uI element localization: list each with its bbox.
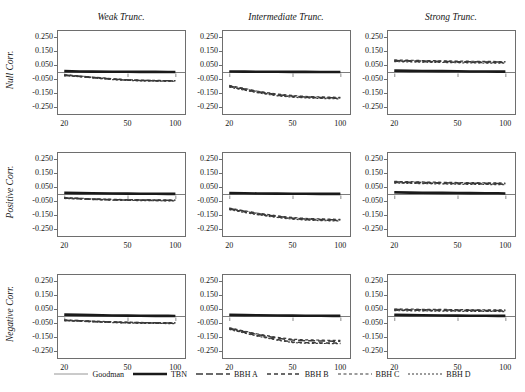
series-line-tbn	[64, 71, 175, 72]
y-tick-label: 0.150	[351, 290, 383, 299]
legend-label: BBH D	[446, 370, 470, 379]
y-tick-mark	[54, 159, 57, 160]
y-tick-label: 0.050	[351, 182, 383, 191]
y-tick-mark	[384, 351, 387, 352]
y-tick-mark	[384, 229, 387, 230]
y-tick-label: -0.150	[186, 88, 218, 97]
y-tick-label: -0.250	[351, 346, 383, 355]
x-tick-label: 100	[161, 241, 189, 250]
y-tick-label: -0.050	[186, 196, 218, 205]
y-tick-label: 0.150	[186, 168, 218, 177]
y-tick-label: 0.150	[21, 290, 53, 299]
series-line-tbn	[64, 193, 175, 194]
y-tick-mark	[54, 51, 57, 52]
x-tick-label: 50	[279, 119, 307, 128]
y-tick-label: -0.050	[21, 74, 53, 83]
y-tick-label: 0.050	[186, 304, 218, 313]
legend-swatch-dash-short	[338, 370, 372, 378]
y-tick-mark	[219, 337, 222, 338]
y-tick-mark	[384, 187, 387, 188]
x-tick-label: 50	[114, 241, 142, 250]
chart-legend: GoodmanTBNBBH ABBH BBBH CBBH D	[0, 364, 525, 384]
y-tick-label: -0.050	[351, 74, 383, 83]
y-tick-label: 0.250	[351, 276, 383, 285]
series-line-tbn	[229, 71, 340, 72]
y-tick-mark	[219, 107, 222, 108]
y-tick-mark	[54, 215, 57, 216]
y-tick-label: -0.050	[21, 318, 53, 327]
y-tick-mark	[54, 79, 57, 80]
y-tick-mark	[384, 215, 387, 216]
y-tick-mark	[54, 323, 57, 324]
y-tick-mark	[384, 93, 387, 94]
y-tick-mark	[54, 93, 57, 94]
y-tick-mark	[384, 309, 387, 310]
y-tick-label: 0.050	[21, 304, 53, 313]
y-tick-mark	[384, 201, 387, 202]
legend-item-tbn: TBN	[133, 370, 187, 379]
y-tick-mark	[54, 229, 57, 230]
y-tick-mark	[54, 201, 57, 202]
y-tick-label: -0.150	[21, 210, 53, 219]
y-tick-mark	[219, 173, 222, 174]
y-tick-label: 0.150	[351, 168, 383, 177]
series-line-bbh-c	[229, 328, 340, 341]
legend-item-goodman: Goodman	[54, 370, 124, 379]
x-tick-label: 20	[215, 241, 243, 250]
series-line-tbn	[394, 192, 505, 193]
y-tick-label: 0.250	[186, 154, 218, 163]
y-tick-mark	[384, 37, 387, 38]
series-line-tbn	[229, 193, 340, 194]
legend-label: TBN	[171, 370, 187, 379]
y-tick-label: -0.250	[186, 346, 218, 355]
y-tick-label: -0.250	[21, 102, 53, 111]
y-tick-mark	[54, 65, 57, 66]
series-line-tbn	[229, 315, 340, 316]
y-tick-label: 0.050	[21, 60, 53, 69]
y-tick-mark	[54, 281, 57, 282]
chart-panel-r3-c3	[387, 274, 516, 359]
x-tick-label: 20	[380, 119, 408, 128]
x-tick-label: 20	[50, 241, 78, 250]
y-tick-label: 0.250	[186, 32, 218, 41]
legend-swatch-dash-fine	[408, 370, 442, 378]
series-line-bbh-c	[64, 75, 175, 81]
y-tick-label: -0.250	[351, 224, 383, 233]
y-tick-label: 0.150	[351, 46, 383, 55]
y-tick-mark	[219, 51, 222, 52]
chart-panel-r1-c2	[222, 30, 351, 115]
y-tick-mark	[54, 337, 57, 338]
y-tick-mark	[54, 37, 57, 38]
y-tick-label: -0.250	[21, 224, 53, 233]
chart-panel-r3-c2	[222, 274, 351, 359]
y-tick-label: 0.150	[21, 168, 53, 177]
y-tick-mark	[384, 281, 387, 282]
y-tick-label: 0.050	[351, 304, 383, 313]
y-tick-mark	[219, 323, 222, 324]
legend-label: BBH C	[376, 370, 400, 379]
x-tick-label: 100	[326, 119, 354, 128]
y-tick-mark	[54, 351, 57, 352]
y-tick-mark	[54, 107, 57, 108]
y-tick-label: -0.050	[21, 196, 53, 205]
y-tick-label: 0.050	[186, 60, 218, 69]
y-tick-label: -0.250	[186, 224, 218, 233]
y-tick-label: -0.150	[351, 332, 383, 341]
legend-label: Goodman	[92, 370, 124, 379]
x-tick-label: 50	[444, 119, 472, 128]
y-tick-label: -0.050	[186, 318, 218, 327]
y-tick-label: -0.150	[186, 210, 218, 219]
y-tick-label: 0.150	[186, 46, 218, 55]
y-tick-label: 0.250	[21, 32, 53, 41]
y-tick-mark	[54, 187, 57, 188]
y-tick-mark	[219, 281, 222, 282]
x-tick-label: 100	[491, 241, 519, 250]
y-tick-label: -0.150	[351, 210, 383, 219]
y-tick-label: -0.250	[21, 346, 53, 355]
y-tick-label: 0.050	[186, 182, 218, 191]
y-tick-mark	[219, 159, 222, 160]
y-tick-mark	[384, 159, 387, 160]
column-title-1: Weak Trunc.	[57, 12, 185, 22]
y-tick-label: 0.250	[351, 154, 383, 163]
y-tick-mark	[219, 79, 222, 80]
